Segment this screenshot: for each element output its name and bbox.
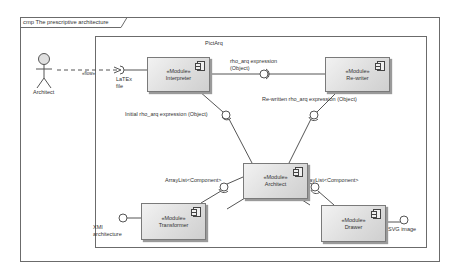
flow-stereotype: «flow» [82, 71, 95, 78]
component-name: Re-writer [346, 75, 368, 82]
interface-xmi-architecture: XMI architecture [93, 224, 122, 237]
component-interpreter[interactable]: «Module» Interpreter [147, 57, 210, 92]
component-stereotype: «Module» [341, 217, 365, 224]
frame-title: cmp The prescriptive architecture [20, 17, 123, 27]
interface-svg-image: SVG image [388, 226, 416, 233]
component-stereotype: «Module» [166, 68, 190, 75]
component-name: Transformer [159, 222, 189, 229]
interface-arraylist-right: ArrayList<Component> [302, 177, 359, 184]
component-icon [373, 209, 381, 219]
interface-rewritten-rho: Re-written rho_arq expression (Object) [262, 96, 357, 103]
interface-latex-file: LaTEx file [116, 76, 132, 89]
component-name: Interpreter [166, 75, 191, 82]
svg-interface-lollipop [400, 216, 408, 224]
component-stereotype: «Module» [161, 215, 185, 222]
component-icon [197, 61, 205, 71]
component-rewriter[interactable]: «Module» Re-writer [325, 57, 390, 92]
diagram-canvas [0, 0, 456, 274]
package-name: PictArq [205, 40, 223, 47]
interface-arraylist-left: ArrayList<Component> [165, 177, 222, 184]
component-stereotype: «Module» [345, 68, 369, 75]
component-icon [295, 167, 303, 177]
xmi-interface-lollipop [119, 214, 127, 222]
component-drawer[interactable]: «Module» Drawer [321, 205, 386, 242]
actor-figure [36, 54, 52, 89]
interface-rho-expression: rho_arq expression (Object) [230, 58, 277, 71]
component-name: Architect [265, 181, 286, 188]
component-icon [193, 207, 201, 217]
interface-initial-rho: Initial rho_arq expression (Object) [125, 111, 208, 118]
component-icon [377, 61, 385, 71]
component-architect[interactable]: «Module» Architect [243, 163, 308, 199]
component-stereotype: «Module» [263, 174, 287, 181]
actor-name: Architect [33, 89, 54, 96]
component-transformer[interactable]: «Module» Transformer [141, 203, 206, 240]
component-name: Drawer [345, 224, 363, 231]
